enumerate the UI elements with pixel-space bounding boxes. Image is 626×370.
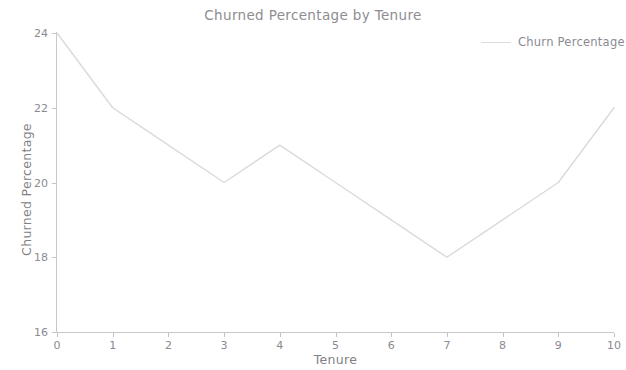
x-tick-mark <box>113 333 114 337</box>
x-tick-label: 2 <box>165 339 172 352</box>
x-tick-label: 9 <box>555 339 562 352</box>
x-tick-mark <box>224 333 225 337</box>
chart-legend: Churn Percentage <box>477 31 626 53</box>
x-tick-mark <box>614 333 615 337</box>
chart-figure: Churned Percentage by Tenure 01234567891… <box>0 0 626 370</box>
x-tick-label: 0 <box>54 339 61 352</box>
x-tick-mark <box>391 333 392 337</box>
x-tick-label: 7 <box>443 339 450 352</box>
y-tick-label: 20 <box>34 176 48 189</box>
legend-line-swatch <box>481 42 511 43</box>
x-tick-label: 10 <box>607 339 621 352</box>
y-tick-label: 24 <box>34 27 48 40</box>
x-tick-mark <box>168 333 169 337</box>
x-tick-mark <box>447 333 448 337</box>
y-tick-mark <box>52 183 56 184</box>
x-tick-label: 8 <box>499 339 506 352</box>
y-tick-label: 18 <box>34 251 48 264</box>
x-tick-mark <box>336 333 337 337</box>
x-tick-mark <box>57 333 58 337</box>
x-axis-label: Tenure <box>57 352 614 367</box>
plot-area <box>57 33 614 332</box>
x-tick-label: 3 <box>221 339 228 352</box>
x-tick-label: 4 <box>276 339 283 352</box>
y-tick-label: 22 <box>34 101 48 114</box>
y-tick-mark <box>52 332 56 333</box>
x-tick-mark <box>503 333 504 337</box>
chart-title: Churned Percentage by Tenure <box>0 7 626 23</box>
y-tick-mark <box>52 33 56 34</box>
x-tick-mark <box>280 333 281 337</box>
legend-label: Churn Percentage <box>518 35 625 49</box>
x-tick-label: 1 <box>109 339 116 352</box>
y-axis-label: Churned Percentage <box>19 100 34 280</box>
y-tick-mark <box>52 257 56 258</box>
y-tick-mark <box>52 108 56 109</box>
x-tick-label: 5 <box>332 339 339 352</box>
x-tick-label: 6 <box>388 339 395 352</box>
y-tick-label: 16 <box>34 326 48 339</box>
x-tick-mark <box>558 333 559 337</box>
